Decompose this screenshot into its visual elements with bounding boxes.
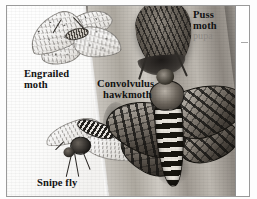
label-puss-moth: Puss moth pupa — [193, 10, 217, 42]
illustration-canvas: Puss moth pupa Engrailed moth Convolvulu… — [7, 6, 238, 197]
plate-frame: Puss moth pupa Engrailed moth Convolvulu… — [6, 5, 250, 197]
label-puss-moth-pupa: pupa — [193, 31, 217, 41]
label-puss-moth-line1: Puss — [193, 9, 214, 20]
plate-right-gutter — [235, 6, 249, 197]
label-engrailed-moth-line2: moth — [24, 79, 48, 90]
label-convolvulus-hawkmoth-line1: Convolvulus — [97, 78, 154, 89]
snipe-fly-head — [63, 147, 75, 158]
snipe-fly-leg — [82, 151, 91, 170]
label-engrailed-moth-line1: Engrailed — [24, 68, 69, 79]
label-engrailed-moth: Engrailed moth — [24, 69, 69, 90]
label-puss-moth-line2: moth — [193, 20, 217, 31]
label-snipe-fly-line1: Snipe fly — [37, 177, 77, 188]
margin-tick-mark — [241, 42, 248, 43]
illustration-plate: Puss moth pupa Engrailed moth Convolvulu… — [0, 0, 257, 199]
label-snipe-fly: Snipe fly — [37, 178, 77, 189]
label-convolvulus-hawkmoth: Convolvulus hawkmoth — [97, 79, 154, 100]
label-convolvulus-hawkmoth-line2: hawkmoth — [103, 90, 154, 101]
snipe-fly-leg — [74, 153, 80, 177]
snipe-fly-leg — [66, 155, 72, 177]
